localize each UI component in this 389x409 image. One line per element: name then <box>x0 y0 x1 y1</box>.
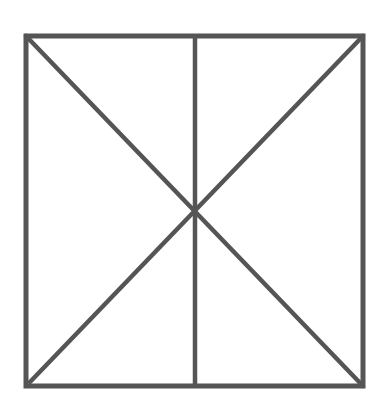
diagram-canvas <box>0 0 389 409</box>
square-with-diagonals-figure <box>0 0 389 409</box>
